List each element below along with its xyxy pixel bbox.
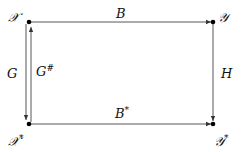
node-Y-star-dot (211, 122, 216, 127)
arrow-G-label: G (7, 66, 17, 80)
arrow-B-star-label: B* (115, 106, 129, 120)
node-Y-dot (211, 20, 216, 25)
arrow-H-label: H (221, 66, 232, 80)
node-Y-star-label: 𝒴* (214, 134, 229, 148)
arrow-B-label: B (116, 6, 126, 20)
node-X-star-label: 𝒳* (8, 134, 24, 148)
node-X-dot (27, 20, 32, 25)
node-Y-label: 𝒴 (218, 10, 228, 24)
node-X-star-dot (27, 122, 32, 127)
node-X-label: 𝒳 (8, 10, 19, 24)
arrow-G-sharp-label: G# (36, 64, 54, 78)
